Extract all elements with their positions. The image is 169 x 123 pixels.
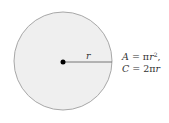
formula-block: A = πr2, C = 2πr	[122, 51, 161, 75]
circumference-formula: C = 2πr	[122, 63, 161, 75]
radius-label: r	[86, 50, 91, 61]
area-formula: A = πr2,	[122, 51, 161, 63]
center-point	[61, 60, 66, 65]
